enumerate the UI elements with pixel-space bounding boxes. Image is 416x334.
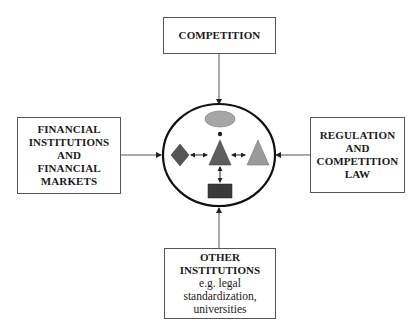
box-bottom-line-3: e.g. legal [199, 277, 241, 290]
grey-ellipse-icon [205, 111, 235, 127]
box-competition: COMPETITION [163, 17, 276, 54]
box-bottom-line-1: OTHER [200, 251, 240, 264]
box-bottom-line-5: universities [193, 303, 246, 316]
dot-icon [218, 132, 222, 136]
box-right-line-4: LAW [345, 168, 370, 181]
box-other-institutions: OTHER INSTITUTIONS e.g. legal standardiz… [164, 248, 276, 319]
box-right-line-3: COMPETITION [317, 155, 399, 168]
box-left-line-4: FINANCIAL [37, 162, 100, 175]
box-left-line-5: MARKETS [41, 175, 97, 188]
box-left-line-2: INSTITUTIONS [29, 136, 110, 149]
box-competition-label: COMPETITION [179, 29, 261, 42]
dark-rectangle-icon [208, 184, 232, 198]
box-left-line-1: FINANCIAL [37, 123, 100, 136]
box-bottom-line-2: INSTITUTIONS [180, 264, 261, 277]
box-financial-institutions: FINANCIAL INSTITUTIONS AND FINANCIAL MAR… [17, 117, 121, 194]
box-regulation: REGULATION AND COMPETITION LAW [310, 117, 405, 193]
box-left-line-3: AND [57, 149, 81, 162]
box-bottom-line-4: standardization, [183, 290, 256, 303]
box-right-line-1: REGULATION [320, 129, 395, 142]
box-right-line-2: AND [345, 142, 369, 155]
